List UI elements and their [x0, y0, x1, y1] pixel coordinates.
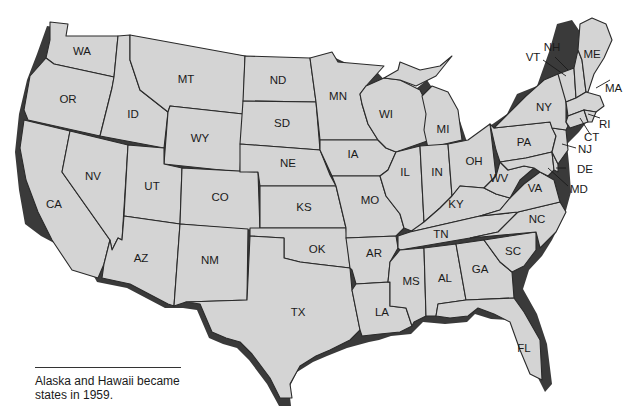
label-IN: IN [431, 166, 443, 178]
label-CT: CT [584, 131, 599, 143]
label-WA: WA [73, 45, 91, 57]
label-MO: MO [361, 194, 380, 206]
label-VA: VA [528, 182, 543, 194]
label-SC: SC [505, 245, 521, 257]
label-OK: OK [309, 243, 326, 255]
label-MD: MD [570, 183, 588, 195]
label-OH: OH [465, 155, 482, 167]
states [20, 18, 612, 398]
label-DE: DE [577, 163, 593, 175]
label-NC: NC [529, 213, 546, 225]
label-NY: NY [536, 101, 552, 113]
label-WV: WV [490, 172, 509, 184]
label-GA: GA [472, 263, 489, 275]
label-IL: IL [400, 166, 410, 178]
label-ND: ND [270, 74, 287, 86]
label-OR: OR [59, 93, 76, 105]
label-MA: MA [605, 82, 623, 94]
label-ME: ME [583, 48, 601, 60]
label-AR: AR [366, 247, 382, 259]
label-WI: WI [379, 108, 393, 120]
label-TN: TN [433, 228, 448, 240]
label-KY: KY [448, 198, 464, 210]
label-LA: LA [375, 306, 389, 318]
label-RI: RI [599, 118, 611, 130]
label-MT: MT [178, 73, 195, 85]
label-NV: NV [85, 170, 101, 182]
label-PA: PA [517, 136, 532, 148]
map-caption: Alaska and Hawaii became states in 1959. [35, 367, 181, 402]
us-map: WA OR CA ID NV MT WY UT AZ CO NM ND SD N… [0, 0, 639, 413]
label-MI: MI [437, 123, 450, 135]
label-FL: FL [517, 342, 531, 354]
label-KS: KS [296, 201, 312, 213]
label-SD: SD [274, 117, 290, 129]
label-CA: CA [46, 198, 62, 210]
label-AL: AL [438, 272, 453, 284]
label-MN: MN [329, 90, 347, 102]
label-AZ: AZ [134, 252, 149, 264]
label-NH: NH [544, 41, 561, 53]
label-CO: CO [211, 191, 228, 203]
label-WY: WY [191, 132, 210, 144]
state-MI[interactable] [422, 86, 462, 148]
label-ID: ID [127, 108, 139, 120]
label-NJ: NJ [578, 143, 592, 155]
label-NE: NE [280, 157, 296, 169]
label-UT: UT [144, 180, 159, 192]
label-MS: MS [402, 275, 420, 287]
state-NY[interactable] [494, 74, 568, 130]
label-NM: NM [201, 254, 219, 266]
label-IA: IA [348, 148, 359, 160]
label-VT: VT [526, 51, 541, 63]
label-TX: TX [291, 306, 306, 318]
